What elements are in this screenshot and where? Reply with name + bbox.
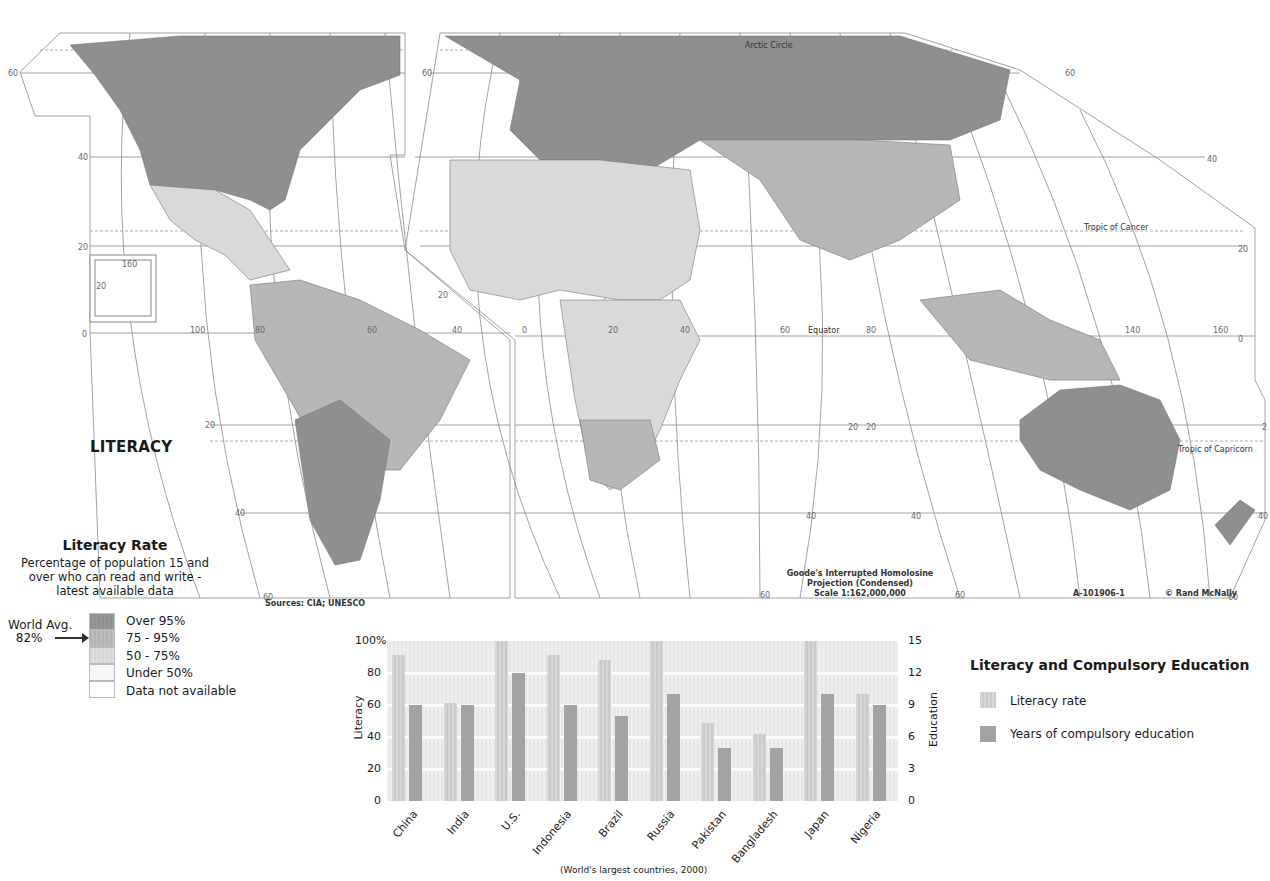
bar-education — [770, 748, 783, 801]
arrow-right-icon — [55, 637, 87, 639]
bar-group — [804, 641, 852, 801]
x-tick-label: Brazil — [596, 808, 626, 840]
x-tick-label: U.S. — [499, 808, 523, 833]
x-tick-label: China — [390, 808, 420, 840]
bar-education — [821, 694, 834, 801]
bar-education — [667, 694, 680, 801]
bar-literacy — [444, 703, 457, 801]
bar-group — [650, 641, 698, 801]
svg-text:60: 60 — [955, 591, 965, 600]
bar-literacy — [598, 660, 611, 801]
chart-caption: (World's largest countries, 2000) — [560, 865, 707, 875]
bar-group — [444, 641, 492, 801]
legend-title: Literacy Rate — [0, 537, 230, 553]
bar-education — [461, 705, 474, 801]
bar-literacy — [701, 723, 714, 801]
x-tick-label: Indonesia — [530, 808, 574, 857]
svg-text:60: 60 — [780, 326, 790, 335]
y-tick-right: 3 — [908, 762, 915, 775]
bar-literacy — [804, 641, 817, 801]
swatch-75-95 — [89, 630, 115, 647]
bar-literacy — [547, 655, 560, 801]
chart-legend-label: Years of compulsory education — [1010, 727, 1194, 741]
literacy-education-bar-chart — [387, 641, 898, 801]
svg-text:20: 20 — [205, 421, 215, 430]
svg-text:100: 100 — [190, 326, 205, 335]
svg-text:60: 60 — [8, 69, 18, 78]
svg-text:160: 160 — [1213, 326, 1228, 335]
chart-legend-title: Literacy and Compulsory Education — [970, 657, 1249, 673]
y-axis-title-left: Literacy — [352, 695, 365, 739]
svg-text:40: 40 — [1258, 512, 1268, 521]
svg-text:20: 20 — [866, 423, 876, 432]
legend-swatches — [89, 613, 115, 698]
svg-text:60: 60 — [422, 69, 432, 78]
svg-text:80: 80 — [866, 326, 876, 335]
svg-text:20: 20 — [608, 326, 618, 335]
svg-text:20: 20 — [1238, 245, 1248, 254]
svg-text:80: 80 — [255, 326, 265, 335]
bar-group — [547, 641, 595, 801]
swatch-over-95 — [89, 613, 115, 630]
y-tick-right: 9 — [908, 698, 915, 711]
svg-text:20: 20 — [438, 291, 448, 300]
svg-text:Arctic Circle: Arctic Circle — [745, 41, 793, 50]
bar-literacy — [753, 734, 766, 801]
svg-text:20: 20 — [96, 282, 106, 291]
bar-education — [564, 705, 577, 801]
svg-text:20: 20 — [78, 243, 88, 252]
bar-group — [598, 641, 646, 801]
bar-literacy — [495, 641, 508, 801]
bar-literacy — [392, 655, 405, 801]
x-tick-label: India — [444, 808, 471, 837]
x-tick-label: Russia — [645, 808, 678, 843]
y-tick-right: 12 — [908, 666, 922, 679]
bar-group — [856, 641, 904, 801]
svg-text:40: 40 — [235, 509, 245, 518]
y-tick-left: 0 — [355, 794, 381, 807]
svg-text:60: 60 — [1065, 69, 1075, 78]
legend-labels: Over 95% 75 - 95% 50 - 75% Under 50% Dat… — [126, 613, 236, 700]
world-average-label: World Avg. 82% — [8, 619, 72, 645]
svg-text:2: 2 — [1262, 423, 1267, 432]
bar-group — [753, 641, 801, 801]
svg-text:40: 40 — [78, 153, 88, 162]
x-tick-label: Nigeria — [848, 808, 883, 847]
bar-education — [409, 705, 422, 801]
svg-text:0: 0 — [82, 330, 87, 339]
svg-text:60: 60 — [760, 591, 770, 600]
bar-group — [392, 641, 440, 801]
svg-text:Equator: Equator — [808, 326, 840, 335]
svg-text:Tropic of Capricorn: Tropic of Capricorn — [1177, 445, 1253, 454]
svg-text:140: 140 — [1125, 326, 1140, 335]
bar-education — [718, 748, 731, 801]
svg-text:0: 0 — [522, 326, 527, 335]
y-tick-left: 80 — [355, 666, 381, 679]
svg-text:40: 40 — [911, 512, 921, 521]
swatch-50-75 — [89, 647, 115, 664]
swatch-literacy-rate — [980, 692, 996, 708]
y-tick-left: 100% — [355, 634, 381, 647]
x-tick-label: Pakistan — [689, 808, 729, 852]
x-tick-label: Japan — [802, 808, 832, 840]
y-tick-right: 15 — [908, 634, 922, 647]
chart-legend-label: Literacy rate — [1010, 694, 1086, 708]
svg-text:160: 160 — [122, 260, 137, 269]
bar-education — [873, 705, 886, 801]
copyright: © Rand McNally — [1165, 589, 1237, 598]
svg-text:20: 20 — [848, 423, 858, 432]
legend-subtitle: Percentage of population 15 and over who… — [0, 556, 230, 598]
projection-note: Goode's Interrupted Homolosine Projectio… — [780, 569, 940, 599]
bar-group — [701, 641, 749, 801]
y-axis-title-right: Education — [927, 692, 940, 747]
map-id: A-101906-1 — [1073, 589, 1125, 598]
svg-text:Tropic of Cancer: Tropic of Cancer — [1083, 223, 1149, 232]
source-note: Sources: CIA; UNESCO — [265, 599, 365, 608]
swatch-compulsory-education — [980, 726, 996, 742]
y-tick-left: 20 — [355, 762, 381, 775]
swatch-under-50 — [89, 664, 115, 681]
svg-text:40: 40 — [1207, 155, 1217, 164]
bar-group — [495, 641, 543, 801]
swatch-not-available — [89, 681, 115, 698]
bar-literacy — [856, 694, 869, 801]
